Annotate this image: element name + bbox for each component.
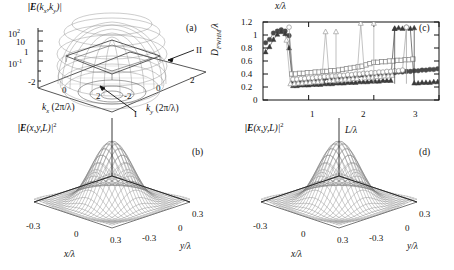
panel-c-series-group: [263, 21, 440, 88]
panel-a: |E(kx,ky)| (a) 102 10 1 10-1 -2 0 2 kx (…: [0, 0, 227, 132]
panel-a-leader-II: [168, 50, 194, 62]
panel-d: |E(x,y,L)|2 (d) -0.3 0 0.3 x/λ -0.3 0 0.…: [227, 132, 454, 270]
panel-c: x/λ (c) DFWHM/λ 1.2 1 0.8 0.6 0.4 0.2 0 …: [227, 0, 454, 132]
figure-root: |E(kx,ky)| (a) 102 10 1 10-1 -2 0 2 kx (…: [0, 0, 454, 270]
panel-a-inner-lobes: [78, 80, 146, 104]
panel-c-plot-canvas: [227, 0, 454, 132]
panel-c-yaxis-title: DFWHM/λ: [211, 23, 222, 56]
panel-b: |E(x,y,L)|2 (b) -0.3 0 0.3 x/λ -0.3 0 0.…: [0, 132, 227, 270]
panel-b-surface-canvas: [0, 132, 227, 270]
panel-a-surface-canvas: [0, 0, 227, 132]
panel-a-zaxis: [38, 28, 43, 88]
panel-d-surface-canvas: [227, 132, 454, 270]
panel-a-base-plane: [38, 52, 206, 112]
